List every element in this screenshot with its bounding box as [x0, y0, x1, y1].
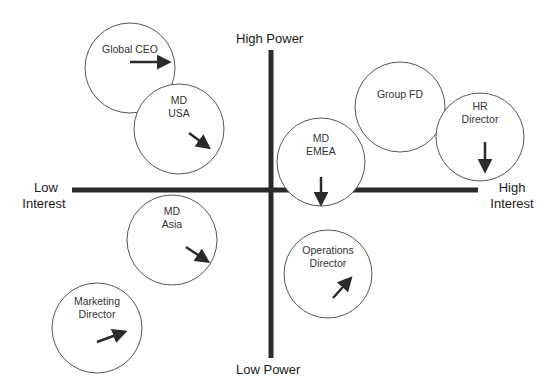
stakeholder-label-md-asia: MD Asia	[162, 205, 182, 231]
axis-label-high-interest: High Interest	[484, 180, 540, 212]
stakeholder-label-group-fd: Group FD	[377, 88, 423, 101]
stakeholder-label-md-emea: MD EMEA	[306, 132, 336, 158]
stakeholder-map: High Power Low Power Low Interest High I…	[0, 0, 551, 392]
axis-label-high-power: High Power	[236, 31, 303, 47]
stakeholder-label-marketing-director: Marketing Director	[74, 295, 120, 321]
axis-label-high-interest-line1: High	[484, 180, 540, 196]
stakeholder-circle	[355, 62, 445, 152]
axis-label-high-interest-line2: Interest	[484, 196, 540, 212]
stakeholder-label-operations-director: Operations Director	[302, 244, 353, 270]
axis-label-low-power: Low Power	[236, 362, 300, 378]
stakeholder-group-fd	[355, 62, 445, 152]
axis-label-low-interest-line1: Low	[24, 180, 68, 196]
stakeholder-label-md-usa: MD USA	[168, 94, 190, 120]
axis-label-low-interest-line2: Interest	[20, 196, 68, 212]
diagram-canvas	[0, 0, 551, 392]
axis-label-low-interest: Low Interest	[24, 180, 68, 212]
stakeholder-label-hr-director: HR Director	[462, 100, 499, 126]
stakeholder-label-global-ceo: Global CEO	[102, 43, 158, 56]
